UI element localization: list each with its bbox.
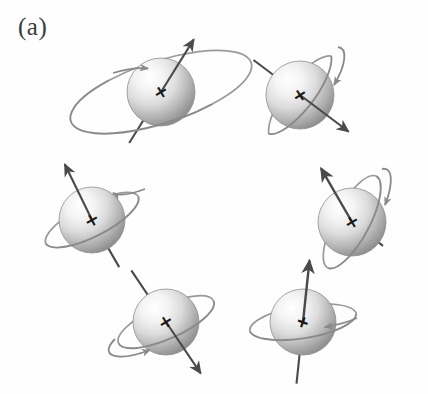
- sphere-unit-2: ×: [254, 47, 349, 134]
- sphere-unit-4: ×: [318, 168, 391, 268]
- sphere-unit-3: ×: [45, 164, 145, 267]
- sphere-unit-1: ×: [70, 39, 251, 143]
- figure-panel: (a): [0, 0, 428, 394]
- spin-precession-diagram: × × × ×: [0, 0, 428, 394]
- ring-direction-arrow-2: [334, 47, 344, 85]
- sphere-unit-6: +: [250, 260, 357, 383]
- ring-direction-arrow-4: [382, 169, 391, 205]
- sphere-unit-5: ×: [109, 270, 214, 373]
